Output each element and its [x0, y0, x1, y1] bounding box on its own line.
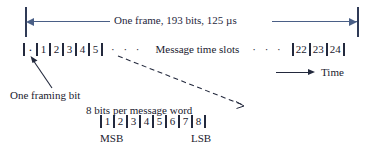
framing-bit-arrowhead-icon [31, 56, 38, 63]
slot-cell-22: 22 [294, 43, 309, 56]
slot-cell-2: 2 [51, 43, 62, 56]
slot-cell-4: 4 [77, 43, 88, 56]
bit-cell-3: 3 [128, 115, 139, 128]
word-detail-arrowhead-icon [236, 102, 244, 109]
bit-cell-5: 5 [154, 115, 165, 128]
lsb-label: LSB [191, 132, 211, 144]
slot-cell-1: 1 [38, 43, 49, 56]
bit-divider [204, 115, 206, 128]
message-word-bit-row: 1 2 3 4 5 6 7 8 [100, 115, 206, 128]
slot-divider [343, 43, 345, 56]
framing-bit-callout-label: One framing bit [10, 89, 80, 101]
bit-cell-2: 2 [115, 115, 126, 128]
time-axis-label: Time [321, 67, 344, 78]
word-detail-leader-line [118, 56, 243, 105]
slot-cell-3: 3 [64, 43, 75, 56]
ellipsis-left: · · · [111, 43, 143, 56]
frame-dimension-line-right [272, 21, 357, 22]
bit-cell-8: 8 [193, 115, 204, 128]
frame-dimension-label: One frame, 193 bits, 125 µs [110, 15, 241, 26]
slot-cell-5: 5 [90, 43, 101, 56]
msb-label: MSB [100, 132, 123, 144]
frame-arrowhead-right-icon [349, 18, 357, 26]
ellipsis-right: · · · [252, 43, 284, 56]
frame-dimension-line-left [33, 21, 111, 22]
frame-right-tick [357, 7, 359, 37]
bit-cell-6: 6 [167, 115, 178, 128]
framing-bit-cell: · [25, 44, 36, 55]
time-axis-arrowhead-icon [308, 69, 315, 75]
slot-divider [101, 43, 103, 56]
bit-cell-4: 4 [141, 115, 152, 128]
framing-bit-leader-line [33, 60, 52, 88]
bit-cell-1: 1 [102, 115, 113, 128]
message-time-slots-label: Message time slots [156, 43, 240, 56]
slot-cell-24: 24 [328, 43, 343, 56]
bit-cell-7: 7 [180, 115, 191, 128]
time-slot-row: · 1 2 3 4 5 · · · Message time slots · ·… [23, 43, 345, 56]
time-axis-line [276, 72, 309, 73]
frame-arrowhead-left-icon [26, 18, 34, 26]
slot-cell-23: 23 [311, 43, 326, 56]
t1-frame-structure-diagram: One frame, 193 bits, 125 µs · 1 2 3 4 5 … [0, 0, 374, 150]
